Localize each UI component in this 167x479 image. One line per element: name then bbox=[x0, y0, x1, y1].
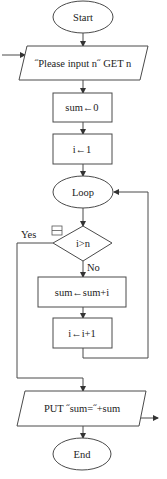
increment-node: i←i+1 bbox=[53, 318, 112, 348]
init-sum-label: sum←0 bbox=[65, 102, 98, 113]
condition-label: i>n bbox=[76, 238, 91, 249]
init-i-label: i←1 bbox=[73, 144, 92, 155]
no-label: No bbox=[87, 262, 100, 273]
accumulate-node: sum←sum+i bbox=[38, 277, 126, 307]
init-sum-node: sum←0 bbox=[53, 93, 112, 122]
end-label: End bbox=[74, 449, 92, 460]
accumulate-label: sum←sum+i bbox=[55, 287, 109, 298]
end-node: End bbox=[53, 438, 111, 470]
edge-yes-branch bbox=[17, 243, 83, 378]
collapse-icon[interactable] bbox=[52, 226, 62, 235]
loop-label: Loop bbox=[72, 187, 94, 198]
loop-node: Loop bbox=[53, 176, 113, 208]
yes-label: Yes bbox=[21, 229, 36, 240]
increment-label: i←i+1 bbox=[68, 328, 96, 339]
input-node: ˝Please input n˝ GET n bbox=[19, 46, 148, 80]
start-label: Start bbox=[73, 12, 93, 23]
output-node: PUT ˝sum=˝+sum bbox=[17, 391, 146, 426]
flowchart-canvas: Start ˝Please input n˝ GET n sum←0 i←1 L… bbox=[0, 0, 167, 479]
init-i-node: i←1 bbox=[53, 134, 112, 164]
input-label: ˝Please input n˝ GET n bbox=[34, 58, 132, 69]
output-label: PUT ˝sum=˝+sum bbox=[44, 403, 120, 414]
start-node: Start bbox=[53, 1, 113, 33]
